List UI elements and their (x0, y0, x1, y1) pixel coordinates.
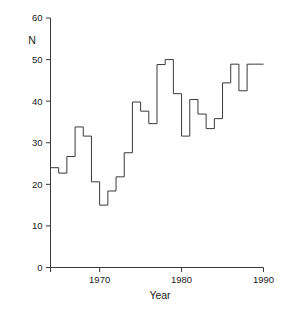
y-tick-label: 0 (37, 262, 42, 273)
y-tick-label: 60 (32, 12, 43, 23)
y-axis-title: N (28, 34, 36, 46)
y-tick-label: 50 (32, 54, 43, 65)
data-series-line (51, 60, 264, 206)
y-axis-ticks (46, 18, 51, 268)
y-tick-label: 30 (32, 137, 43, 148)
y-tick-label: 20 (32, 179, 43, 190)
x-axis-title: Year (149, 289, 171, 301)
x-tick-label: 1970 (89, 274, 110, 285)
step-chart-plot: 0102030405060 197019801990 N Year (0, 0, 287, 311)
y-axis-tick-labels: 0102030405060 (32, 12, 43, 273)
y-tick-label: 40 (32, 96, 43, 107)
chart-figure: 0102030405060 197019801990 N Year (0, 0, 287, 311)
x-tick-label: 1990 (253, 274, 274, 285)
y-tick-label: 10 (32, 220, 43, 231)
x-axis-tick-labels: 197019801990 (89, 274, 274, 285)
x-axis-ticks (51, 268, 264, 273)
x-tick-label: 1980 (171, 274, 192, 285)
